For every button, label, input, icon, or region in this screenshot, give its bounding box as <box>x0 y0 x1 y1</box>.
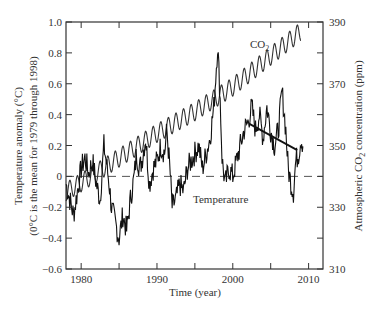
y-tick-label: 0 <box>57 170 63 182</box>
co2-annotation: CO2 <box>250 38 269 53</box>
x-tick-label: 2000 <box>222 273 245 285</box>
x-axis-title: Time (year) <box>169 286 221 299</box>
temperature-series-line <box>66 52 303 245</box>
y-axis-left-ticks: 1.00.80.60.40.20−0.2−0.4−0.6 <box>42 16 72 275</box>
y-tick-label: 0.2 <box>48 140 62 152</box>
chart: 1980199020002010 1.00.80.60.40.20−0.2−0.… <box>0 0 375 309</box>
y2-tick-label: 390 <box>329 16 346 28</box>
y-tick-label: 0.8 <box>48 47 62 59</box>
y-tick-label: −0.2 <box>42 201 62 213</box>
y-tick-label: −0.4 <box>42 232 62 244</box>
y-tick-label: −0.6 <box>42 263 62 275</box>
y2-axis-title: Atmospheric CO2 concentration (ppm) <box>352 60 367 231</box>
temperature-path <box>66 52 303 245</box>
y2-tick-label: 370 <box>329 78 346 90</box>
temperature-annotation: Temperature <box>193 193 249 205</box>
x-tick-label: 1990 <box>146 273 169 285</box>
y-tick-label: 1.0 <box>48 16 62 28</box>
y2-tick-label: 350 <box>329 140 346 152</box>
y-axis-title: Temperature anomaly (°C) <box>12 87 25 205</box>
x-tick-label: 1980 <box>70 273 93 285</box>
y-tick-label: 0.6 <box>48 78 62 90</box>
y-tick-label: 0.4 <box>48 109 62 121</box>
y2-tick-label: 330 <box>329 201 346 213</box>
y-axis-right-ticks: 390370350330310 <box>317 16 346 275</box>
y-axis-subtitle: (0°C is the mean for 1979 through 1998) <box>27 56 40 236</box>
y2-tick-label: 310 <box>329 263 346 275</box>
x-tick-label: 2010 <box>298 273 321 285</box>
